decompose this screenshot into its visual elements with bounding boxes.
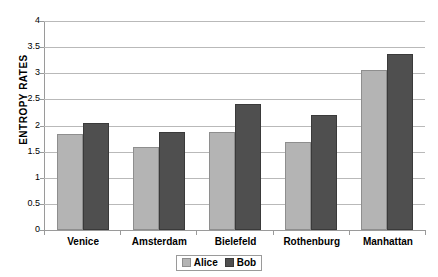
category-label-bielefeld: Bielefeld [197,236,273,248]
y-tick-mark [40,21,44,22]
bar-venice-alice [57,134,83,230]
bar-group [197,21,273,230]
y-tick-label: 1 [18,173,40,182]
legend-label: Bob [237,257,256,268]
legend-item-bob: Bob [225,257,256,268]
y-tick-mark [40,152,44,153]
bar-group [273,21,349,230]
x-tick-mark [44,230,45,235]
y-tick-label: 2.5 [18,94,40,103]
y-tick-label: 2 [18,121,40,130]
x-tick-mark [425,230,426,235]
y-tick-mark [40,73,44,74]
category-label-venice: Venice [45,236,121,248]
y-tick-label: 0 [18,225,40,234]
y-tick-label: 0.5 [18,199,40,208]
y-tick-mark [40,204,44,205]
legend-swatch-icon [225,258,234,267]
bar-groups [45,21,425,230]
y-tick-mark [40,47,44,48]
bar-manhattan-alice [361,70,387,230]
legend-swatch-icon [182,258,191,267]
bar-rothenburg-alice [285,142,311,230]
x-axis-category-labels: VeniceAmsterdamBielefeldRothenburgManhat… [45,236,426,248]
bar-amsterdam-bob [159,132,185,230]
bar-rothenburg-bob [311,115,337,230]
bar-bielefeld-bob [235,104,261,230]
bar-amsterdam-alice [133,147,159,230]
legend-label: Alice [194,257,218,268]
bar-group [349,21,425,230]
y-tick-label: 1.5 [18,147,40,156]
y-tick-label: 4 [18,16,40,25]
y-tick-label: 3.5 [18,42,40,51]
category-label-manhattan: Manhattan [350,236,426,248]
bar-group [45,21,121,230]
category-label-rothenburg: Rothenburg [274,236,350,248]
x-tick-mark [196,230,197,235]
bar-venice-bob [83,123,109,230]
y-tick-mark [40,99,44,100]
y-tick-label: 3 [18,68,40,77]
plot-area: 43.532.521.510.50 [44,21,425,230]
x-tick-mark [349,230,350,235]
x-tick-mark [273,230,274,235]
x-tick-mark [120,230,121,235]
legend-item-alice: Alice [182,257,218,268]
bar-bielefeld-alice [209,132,235,230]
bar-chart: ENTROPY RATES 43.532.521.510.50 VeniceAm… [0,0,438,277]
bar-manhattan-bob [387,54,413,230]
y-tick-mark [40,178,44,179]
y-tick-mark [40,126,44,127]
legend: AliceBob [0,255,438,271]
legend-box: AliceBob [176,255,262,271]
category-label-amsterdam: Amsterdam [121,236,197,248]
x-axis-line [44,230,425,231]
bar-group [121,21,197,230]
